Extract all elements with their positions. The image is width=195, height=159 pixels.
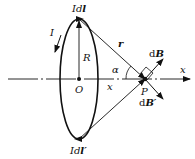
label-x-distance: x — [107, 81, 113, 92]
angle-arc — [126, 66, 131, 79]
center-point — [77, 77, 81, 81]
label-dB: dB — [149, 48, 164, 59]
loop-arrow-top-icon — [76, 16, 84, 22]
label-x-axis: x — [180, 64, 186, 75]
label-dB-prime: dB′ — [139, 97, 157, 108]
label-current: I — [49, 27, 55, 38]
label-p: P — [140, 86, 148, 97]
label-center: O — [75, 84, 83, 95]
label-radius: R — [82, 52, 91, 63]
label-idl-top: Idl — [71, 3, 86, 14]
dB-vector — [145, 59, 163, 79]
current-direction-arrow — [55, 35, 61, 52]
label-idl-bottom: Idl′ — [69, 145, 87, 156]
label-r: r — [118, 38, 124, 49]
current-loop-diagram: Idl I R O r α x x P dB dB′ Idl′ — [0, 0, 195, 159]
point-p — [143, 77, 147, 81]
label-alpha: α — [112, 64, 119, 75]
